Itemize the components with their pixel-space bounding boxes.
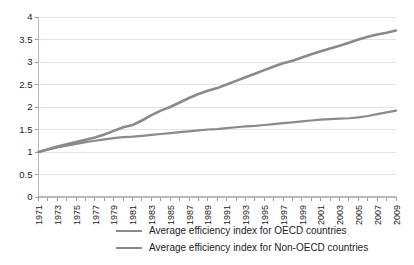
legend-label-oecd: Average efficiency index for OECD countr… <box>149 225 347 236</box>
y-axis-tick-label: 0.5 <box>19 169 32 180</box>
y-axis-tick-label: 3 <box>27 56 32 67</box>
legend-item-oecd: Average efficiency index for OECD countr… <box>116 222 406 239</box>
x-axis-tick-label: 1977 <box>91 205 101 225</box>
y-axis-labels: 00.511.522.533.54 <box>19 11 32 202</box>
legend-swatch-non-oecd <box>116 247 142 249</box>
legend-item-non-oecd: Average efficiency index for Non-OECD co… <box>116 239 406 256</box>
y-axis-tick-label: 4 <box>27 11 32 22</box>
y-axis-tick-label: 2 <box>27 101 32 112</box>
series-line-oecd <box>39 111 397 152</box>
data-series <box>39 31 397 153</box>
x-axis-ticks <box>39 197 397 201</box>
chart-container: 00.511.522.533.54 1971197319751977197919… <box>0 0 414 265</box>
x-axis-tick-label: 1971 <box>34 205 44 225</box>
series-line-non-oecd <box>39 31 397 153</box>
legend-swatch-oecd <box>116 230 142 232</box>
y-axis-tick-label: 3.5 <box>19 34 32 45</box>
x-axis-tick-label: 1975 <box>72 205 82 225</box>
x-axis-tick-label: 1973 <box>53 205 63 225</box>
gridlines <box>39 17 397 175</box>
y-axis-tick-label: 0 <box>27 191 32 202</box>
y-axis-tick-label: 1 <box>27 146 32 157</box>
legend-label-non-oecd: Average efficiency index for Non-OECD co… <box>149 242 368 253</box>
y-axis-tick-label: 2.5 <box>19 79 32 90</box>
y-axis-tick-label: 1.5 <box>19 124 32 135</box>
chart-legend: Average efficiency index for OECD countr… <box>116 222 406 256</box>
